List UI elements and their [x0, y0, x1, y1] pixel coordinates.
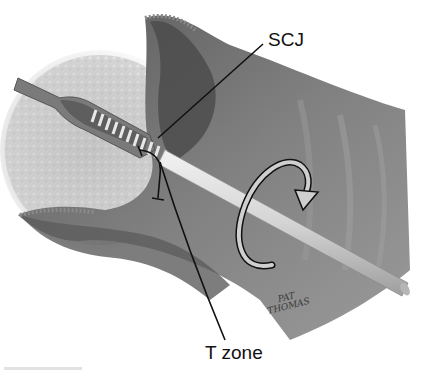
- faint-caption-bar: [4, 367, 82, 370]
- t-zone-label: T zone: [205, 343, 263, 362]
- scj-label: SCJ: [268, 30, 304, 49]
- cytobrush-illustration: SCJ T zone PAT THOMAS: [0, 0, 429, 372]
- illustration-canvas: [0, 0, 429, 372]
